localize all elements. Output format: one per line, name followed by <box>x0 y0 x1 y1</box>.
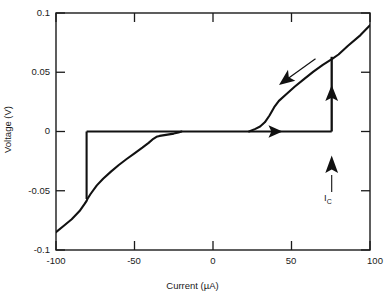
ic-pointer <box>325 156 338 193</box>
curve-upper-resistive-branch <box>249 25 370 131</box>
ic-subscript: C <box>327 198 332 205</box>
iv-curve-figure: 0.1 0.05 0 -0.05 -0.1 -100 -50 0 50 100 … <box>0 0 385 299</box>
x-axis-title: Current (µA) <box>0 280 385 291</box>
ytick-label-2: 0 <box>14 126 50 136</box>
critical-current-label: IC <box>324 193 332 205</box>
xtick-label-0: -100 <box>46 256 65 266</box>
ytick-label-0: 0.1 <box>14 8 50 18</box>
ytick-label-1: 0.05 <box>14 67 50 77</box>
ytick-label-3: -0.05 <box>14 186 50 196</box>
curve-return-branch-resistive <box>56 132 182 233</box>
y-axis-title: Voltage (V) <box>2 80 13 180</box>
xtick-label-3: 50 <box>286 256 297 266</box>
xtick-label-2: 0 <box>210 256 215 266</box>
xtick-label-1: -50 <box>127 256 141 266</box>
sweep-down-arrow <box>279 59 316 85</box>
ytick-label-4: -0.1 <box>14 245 50 255</box>
xtick-label-4: 100 <box>367 256 383 266</box>
